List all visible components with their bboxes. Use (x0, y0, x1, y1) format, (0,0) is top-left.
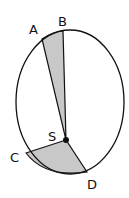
label-b: B (58, 14, 67, 29)
label-s: S (48, 129, 56, 144)
label-c: C (10, 150, 19, 165)
label-a: A (29, 22, 38, 37)
label-d: D (87, 177, 97, 192)
shaded-sector-ab (42, 31, 66, 140)
sun-point (63, 137, 69, 143)
kepler-orbit-diagram: A B S C D (0, 0, 129, 198)
